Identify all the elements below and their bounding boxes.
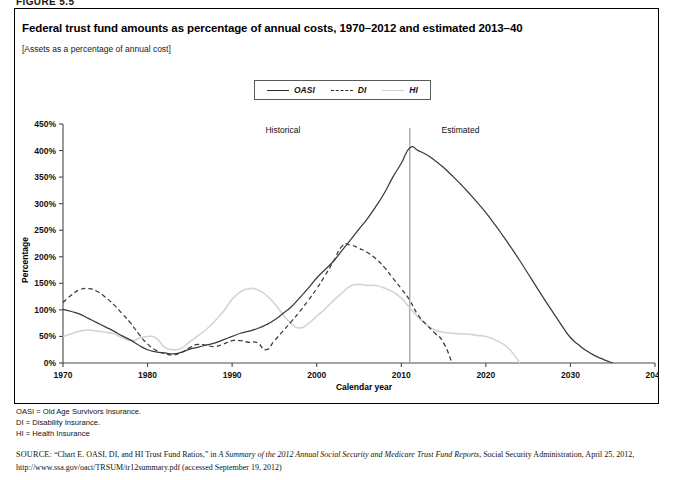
series-line-di	[63, 244, 452, 363]
note-di: DI = Disability Insurance.	[16, 417, 141, 428]
chart-plot-area: 0%50%100%150%200%250%300%350%400%450% 19…	[14, 8, 659, 404]
y-tick-label: 50%	[39, 331, 56, 341]
y-axis-title: Percentage	[20, 237, 30, 283]
x-tick-label: 1990	[223, 370, 242, 380]
x-tick-label: 1970	[54, 370, 73, 380]
y-tick-label: 300%	[34, 199, 56, 209]
figure-notes: OASI = Old Age Survivors Insurance. DI =…	[16, 406, 141, 440]
note-oasi: OASI = Old Age Survivors Insurance.	[16, 406, 141, 417]
source-prefix: SOURCE:	[16, 450, 52, 459]
annotation-estimated: Estimated	[442, 125, 480, 135]
chart-series	[63, 147, 613, 363]
figure-source: SOURCE: “Chart E. OASI, DI, and HI Trust…	[16, 449, 661, 474]
x-tick-labels: 19701980199020002010202020302040	[54, 370, 659, 380]
x-axis-title: Calendar year	[336, 382, 393, 392]
y-tick-label: 100%	[34, 305, 56, 315]
x-tick-label: 2040	[646, 370, 659, 380]
x-tick-label: 1980	[138, 370, 157, 380]
y-tick-label: 0%	[44, 358, 57, 368]
y-tick-label: 250%	[34, 225, 56, 235]
y-tick-label: 450%	[34, 119, 56, 129]
y-tick-label: 400%	[34, 146, 56, 156]
chart-svg: 0%50%100%150%200%250%300%350%400%450% 19…	[14, 8, 659, 404]
figure-label: FIGURE 5.5	[16, 0, 74, 7]
y-tick-label: 350%	[34, 172, 56, 182]
series-line-oasi	[63, 147, 613, 363]
x-tick-label: 2010	[392, 370, 411, 380]
annotation-historical: Historical	[265, 125, 300, 135]
x-tick-label: 2000	[307, 370, 326, 380]
note-hi: HI = Health Insurance	[16, 428, 141, 439]
source-text-1: “Chart E. OASI, DI, and HI Trust Fund Ra…	[52, 450, 218, 459]
x-tick-label: 2030	[561, 370, 580, 380]
y-tick-labels: 0%50%100%150%200%250%300%350%400%450%	[34, 119, 56, 368]
y-tick-label: 200%	[34, 252, 56, 262]
x-tick-label: 2020	[476, 370, 495, 380]
source-italic-1: A Summary of the 2012 Annual Social Secu…	[218, 450, 479, 459]
y-tick-label: 150%	[34, 278, 56, 288]
